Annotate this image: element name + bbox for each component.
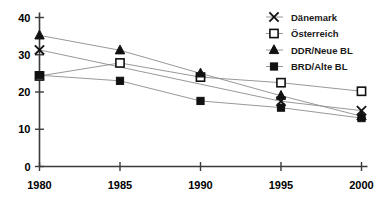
- x-tick-label: 1980: [27, 179, 51, 191]
- chart-legend: DänemarkÖsterreichDDR/Neue BLBRD/Alte BL: [266, 12, 353, 73]
- legend-label: DDR/Neue BL: [291, 45, 353, 56]
- data-point-marker: [357, 87, 365, 95]
- legend-marker: [269, 45, 278, 54]
- legend-item: Österreich: [266, 28, 339, 39]
- data-point-marker: [358, 114, 365, 121]
- data-point-marker: [116, 77, 123, 84]
- y-tick-label: 30: [18, 49, 30, 61]
- data-point-marker: [277, 104, 284, 111]
- y-axis-tick-labels: 010203040: [18, 12, 30, 173]
- data-point-marker: [35, 30, 44, 39]
- legend-label: Dänemark: [291, 12, 338, 23]
- data-point-marker: [116, 59, 124, 67]
- legend-label: Österreich: [291, 28, 339, 39]
- data-point-marker: [277, 79, 285, 87]
- x-tick-label: 1985: [108, 179, 132, 191]
- y-tick-label: 0: [24, 161, 30, 173]
- data-point-marker: [36, 72, 43, 79]
- y-tick-label: 40: [18, 12, 30, 24]
- legend-marker: [270, 63, 277, 70]
- x-tick-label: 2000: [349, 179, 373, 191]
- chart-svg: 010203040 19801985199019952000 DänemarkÖ…: [0, 0, 385, 200]
- line-chart: 010203040 19801985199019952000 DänemarkÖ…: [0, 0, 385, 200]
- y-tick-label: 10: [18, 123, 30, 135]
- y-tick-label: 20: [18, 86, 30, 98]
- legend-marker: [270, 29, 278, 37]
- legend-item: Dänemark: [266, 12, 338, 23]
- x-tick-label: 1990: [188, 179, 212, 191]
- x-tick-label: 1995: [269, 179, 293, 191]
- legend-item: BRD/Alte BL: [266, 61, 348, 72]
- x-axis-tick-labels: 19801985199019952000: [27, 179, 373, 191]
- legend-item: DDR/Neue BL: [266, 45, 353, 56]
- legend-label: BRD/Alte BL: [291, 61, 348, 72]
- data-point-marker: [197, 97, 204, 104]
